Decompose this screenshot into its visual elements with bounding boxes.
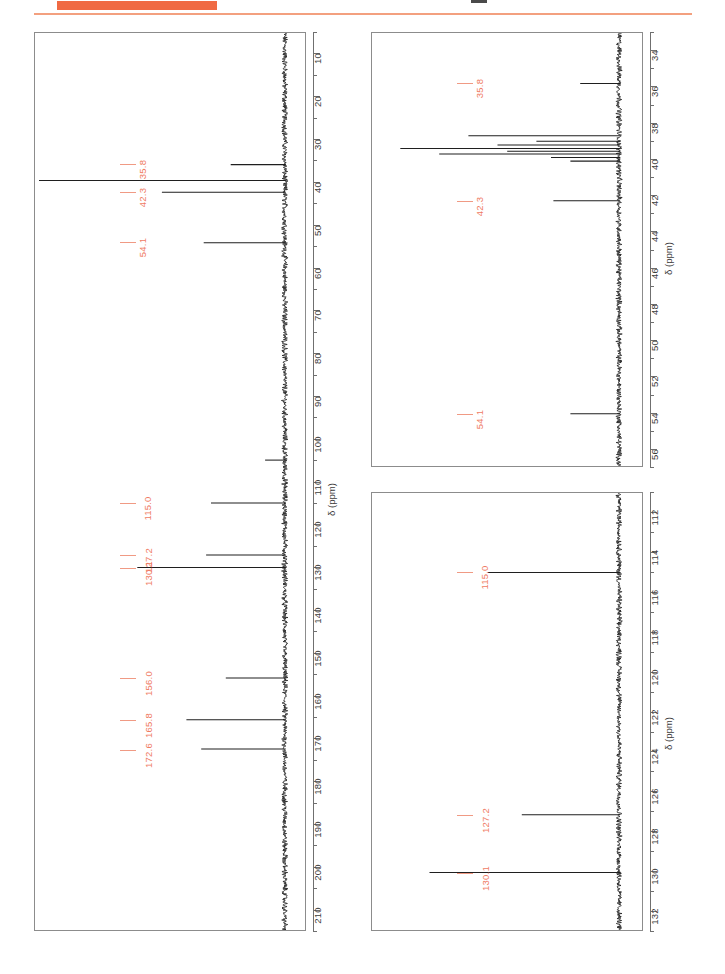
axis-tick-label: 130: [312, 564, 323, 580]
axis-tick-label: 20: [312, 96, 323, 107]
axis-tick-minor: [650, 68, 654, 69]
page-header-rule: [34, 13, 692, 15]
spectrum-trace: [35, 33, 305, 930]
aliphatic-expansion-panel: [371, 32, 643, 467]
axis-tick-label: 56: [649, 449, 660, 460]
axis-tick-label: 48: [649, 304, 660, 315]
axis-tick-label: 126: [649, 789, 660, 805]
axis-tick-label: 80: [312, 353, 323, 364]
axis-tick-minor: [313, 845, 317, 846]
axis-tick-minor: [650, 732, 654, 733]
peak-label: 42.3: [474, 196, 485, 215]
axis-tick-minor: [313, 75, 317, 76]
axis-tick-label: 118: [649, 629, 660, 645]
aromatic-expansion-panel: [371, 492, 643, 931]
axis-tick-label: 132: [649, 908, 660, 924]
ppm-axis-aromatic: 112114116118120122124126128130132δ (ppm): [650, 492, 690, 931]
axis-tick-label: 200: [312, 864, 323, 880]
axis-tick-minor: [650, 771, 654, 772]
axis-tick-label: 124: [649, 749, 660, 765]
axis-tick-label: 42: [649, 195, 660, 206]
axis-tick-minor: [313, 118, 317, 119]
axis-title: δ (ppm): [663, 242, 674, 275]
axis-tick-label: 52: [649, 376, 660, 387]
axis-tick-label: 160: [312, 693, 323, 709]
page-header-accent-bar: [57, 1, 217, 10]
peak-label: 127.2: [480, 808, 491, 833]
peak-label-leader: [457, 572, 473, 573]
peak-label-leader: [457, 83, 473, 84]
peak-label-leader: [120, 750, 136, 751]
axis-tick-label: 210: [312, 907, 323, 923]
axis-tick-label: 190: [312, 821, 323, 837]
axis-title: δ (ppm): [663, 717, 674, 750]
axis-tick-label: 120: [312, 522, 323, 538]
axis-tick-label: 36: [649, 86, 660, 97]
axis-tick-minor: [313, 803, 317, 804]
peak-label: 172.6: [143, 743, 154, 768]
axis-tick-minor: [650, 286, 654, 287]
axis-tick-minor: [650, 652, 654, 653]
peak-label: 165.8: [143, 714, 154, 739]
axis-tick-minor: [650, 572, 654, 573]
axis-tick-minor: [650, 213, 654, 214]
axis-tick-minor: [650, 811, 654, 812]
axis-tick-minor: [650, 612, 654, 613]
axis-tick-minor: [313, 546, 317, 547]
axis-tick-label: 50: [649, 340, 660, 351]
axis-tick-minor: [650, 891, 654, 892]
axis-tick-minor: [313, 760, 317, 761]
axis-tick-minor: [313, 32, 317, 33]
axis-tick-label: 70: [312, 310, 323, 321]
axis-tick-label: 50: [312, 225, 323, 236]
axis-tick-label: 46: [649, 268, 660, 279]
axis-tick-minor: [313, 674, 317, 675]
axis-tick-minor: [313, 332, 317, 333]
peak-label-leader: [457, 414, 473, 415]
ppm-axis-aliphatic: 343638404244464850525456δ (ppm): [650, 32, 690, 467]
axis-tick-label: 116: [649, 589, 660, 605]
axis-tick-minor: [650, 395, 654, 396]
axis-tick-minor: [650, 358, 654, 359]
axis-tick-minor: [650, 492, 654, 493]
axis-tick-label: 44: [649, 231, 660, 242]
peak-label-leader: [120, 242, 136, 243]
page-header-text-fragment: [471, 0, 487, 3]
peak-label: 54.1: [474, 410, 485, 429]
axis-tick-minor: [313, 375, 317, 376]
spectrum-trace: [372, 33, 642, 466]
axis-tick-label: 180: [312, 778, 323, 794]
axis-title: δ (ppm): [326, 483, 337, 516]
peak-label: 115.0: [479, 565, 490, 589]
axis-tick-label: 114: [649, 550, 660, 566]
axis-tick-label: 10: [312, 53, 323, 64]
axis-tick-label: 40: [312, 182, 323, 193]
axis-tick-minor: [650, 141, 654, 142]
axis-tick-label: 122: [649, 709, 660, 725]
peak-label-leader: [457, 201, 473, 202]
peak-label: 54.1: [137, 238, 148, 257]
axis-tick-minor: [313, 631, 317, 632]
axis-tick-minor: [650, 322, 654, 323]
axis-tick-label: 34: [649, 50, 660, 61]
spectrum-trace: [372, 493, 642, 930]
axis-tick-label: 100: [312, 436, 323, 452]
axis-tick-minor: [313, 417, 317, 418]
axis-tick-label: 140: [312, 607, 323, 623]
axis-tick-label: 112: [649, 510, 660, 526]
axis-tick-minor: [650, 692, 654, 693]
axis-tick-minor: [313, 589, 317, 590]
peak-label: 35.8: [474, 79, 485, 98]
axis-tick-minor: [650, 32, 654, 33]
axis-tick-minor: [313, 888, 317, 889]
peak-label: 42.3: [137, 188, 148, 207]
axis-tick-minor: [313, 246, 317, 247]
axis-tick-minor: [313, 203, 317, 204]
axis-tick-label: 110: [312, 479, 323, 495]
axis-tick-label: 60: [312, 268, 323, 279]
ppm-axis-full: 1020304050607080901001101201301401501601…: [313, 32, 353, 931]
axis-tick-minor: [313, 503, 317, 504]
axis-tick-minor: [650, 467, 654, 468]
axis-tick-label: 90: [312, 396, 323, 407]
axis-tick-minor: [313, 717, 317, 718]
